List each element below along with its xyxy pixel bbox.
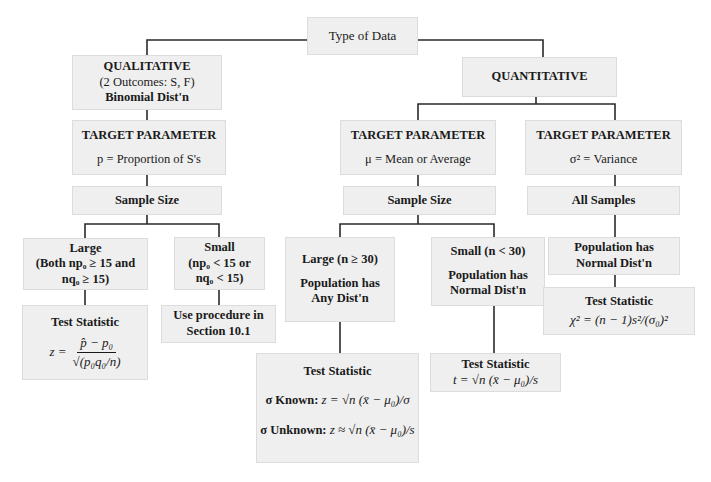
large-label: Large (n ≥ 30) [302,252,378,268]
large-label: Large [70,241,102,257]
target-parameter-value: p = Proportion of S's [97,152,201,168]
use-procedure-node: Use procedure in Section 10.1 [161,305,276,343]
qualitative-distribution: Binomial Dist'n [105,90,189,106]
sigma-known-label: σ Known: [265,393,318,407]
test-statistic-heading: Test Statistic [462,357,530,373]
sigma-unknown-row: σ Unknown: z ≈ √n (x̄ − μ₀)/s [260,422,414,439]
sample-size-label: Sample Size [115,193,179,209]
test-statistic-heading: Test Statistic [585,294,653,310]
sigma-known-formula: z = √n (x̄ − μ₀)/σ [322,392,410,407]
large-condition-2: nq₀ ≥ 15) [62,272,109,288]
population-normal-variance-node: Population has Normal Dist'n [548,237,680,275]
sample-size-mean-node: Sample Size [343,186,496,215]
sigma-known-row: σ Known: z = √n (x̄ − μ₀)/σ [265,392,409,409]
population-line-2: Normal Dist'n [450,283,526,299]
small-sample-mean-node: Small (n < 30) Population has Normal Dis… [431,237,545,306]
large-sample-mean-node: Large (n ≥ 30) Population has Any Dist'n [285,237,395,322]
population-line-2: Normal Dist'n [576,256,652,272]
large-condition-1: (Both np₀ ≥ 15 and [36,256,136,272]
all-samples-node: All Samples [527,186,680,215]
t-formula: t = √n (x̄ − μ₀)/s [453,372,538,388]
population-line-2: Any Dist'n [311,291,368,307]
target-parameter-heading: TARGET PARAMETER [351,128,485,144]
population-line-1: Population has [574,240,654,256]
test-statistic-z-mean-node: Test Statistic σ Known: z = √n (x̄ − μ₀)… [256,353,419,463]
small-sample-proportion-node: Small (np₀ < 15 or nq₀ < 15) [174,237,265,290]
sample-size-proportion-node: Sample Size [72,186,222,215]
small-label: Small (n < 30) [451,244,526,260]
target-parameter-variance-node: TARGET PARAMETER σ² = Variance [525,120,682,175]
qualitative-node: QUALITATIVE (2 Outcomes: S, F) Binomial … [72,55,222,110]
small-condition-1: (np₀ < 15 or [188,256,251,272]
qualitative-subtitle: (2 Outcomes: S, F) [99,75,194,91]
sigma-unknown-formula: z ≈ √n (x̄ − μ₀)/s [330,422,415,437]
target-parameter-value: σ² = Variance [570,152,638,168]
population-line-1: Population has [448,268,528,284]
all-samples-label: All Samples [572,193,636,209]
population-line-1: Population has [300,276,380,292]
procedure-line-2: Section 10.1 [187,324,251,340]
target-parameter-proportion-node: TARGET PARAMETER p = Proportion of S's [72,120,226,175]
sigma-unknown-label: σ Unknown: [260,423,326,437]
test-statistic-heading: Test Statistic [51,315,119,331]
type-of-data-label: Type of Data [329,28,397,44]
target-parameter-heading: TARGET PARAMETER [82,128,216,144]
target-parameter-value: μ = Mean or Average [365,152,471,168]
test-statistic-heading: Test Statistic [304,364,372,380]
target-parameter-mean-node: TARGET PARAMETER μ = Mean or Average [340,120,496,175]
small-condition-2: nq₀ < 15) [196,271,244,287]
chi-square-formula: χ² = (n − 1)s²/(σ₀)² [570,312,668,328]
qualitative-title: QUALITATIVE [103,59,190,75]
test-statistic-t-node: Test Statistic t = √n (x̄ − μ₀)/s [430,353,561,392]
small-label: Small [204,240,235,256]
test-statistic-proportion-node: Test Statistic z = p̂ − p₀ √(p₀q₀/n) [22,305,148,380]
quantitative-node: QUANTITATIVE [462,57,617,97]
z-proportion-formula: z = p̂ − p₀ √(p₀q₀/n) [49,335,120,371]
large-sample-proportion-node: Large (Both np₀ ≥ 15 and nq₀ ≥ 15) [23,238,148,290]
target-parameter-heading: TARGET PARAMETER [536,128,670,144]
procedure-line-1: Use procedure in [173,308,264,324]
test-statistic-chi-square-node: Test Statistic χ² = (n − 1)s²/(σ₀)² [543,287,695,335]
sample-size-label: Sample Size [387,193,451,209]
type-of-data-node: Type of Data [307,17,418,55]
quantitative-title: QUANTITATIVE [491,69,587,85]
